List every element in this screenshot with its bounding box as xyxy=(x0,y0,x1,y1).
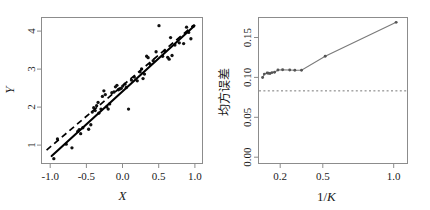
y-tick-label: 4 xyxy=(25,28,37,34)
scatter-point xyxy=(102,89,105,92)
x-tick-label: -0.5 xyxy=(78,170,96,182)
scatter-point xyxy=(95,104,98,107)
least-squares-fit-line xyxy=(52,26,195,156)
mse-data-point xyxy=(395,21,398,24)
x-axis-tick-labels: 0.2 0.5 1.0 xyxy=(273,170,401,182)
figure-container: 1 2 3 4 -1.0 -0.5 0.0 0.5 1.0 X xyxy=(0,0,430,210)
test-mse-points xyxy=(261,21,397,79)
x-tick-label: 0.5 xyxy=(152,170,166,182)
plot-frame xyxy=(259,18,408,164)
mse-data-point xyxy=(276,69,279,72)
mse-data-point xyxy=(263,73,266,76)
y-tick-label: 0.00 xyxy=(241,147,253,167)
y-tick-label: 1 xyxy=(25,142,37,148)
scatter-point xyxy=(182,42,185,45)
x-axis-title: X xyxy=(118,188,128,203)
scatter-point xyxy=(146,56,149,59)
x-tick-label: 0.2 xyxy=(273,170,287,182)
x-axis-title: 1/ K xyxy=(317,189,337,204)
x-tick-label: 1.0 xyxy=(387,170,401,182)
scatter-point xyxy=(89,123,92,126)
scatter-point xyxy=(115,84,118,87)
mse-plot-svg: 0.00 0.05 0.10 0.15 0.2 0.5 1.0 1/ K 均 xyxy=(215,0,430,210)
y-axis-ticks xyxy=(37,31,42,145)
mse-data-point xyxy=(261,76,264,79)
x-tick-label: 0.0 xyxy=(116,170,130,182)
y-axis-tick-labels: 0.00 0.05 0.10 0.15 xyxy=(241,27,253,166)
x-axis-title-variable: K xyxy=(326,189,337,204)
scatter-point xyxy=(141,77,144,80)
scatter-point xyxy=(101,95,104,98)
mse-data-point xyxy=(324,55,327,58)
mse-data-point xyxy=(273,71,276,74)
scatter-point xyxy=(127,107,130,110)
x-axis-title-prefix: 1/ xyxy=(317,189,328,204)
x-tick-label: -1.0 xyxy=(41,170,59,182)
y-tick-label: 2 xyxy=(25,104,37,110)
y-axis-title: Y xyxy=(2,85,17,94)
x-axis-ticks xyxy=(280,164,394,169)
scatter-point xyxy=(87,128,90,131)
scatter-plot-svg: 1 2 3 4 -1.0 -0.5 0.0 0.5 1.0 X xyxy=(0,0,215,210)
mse-panel: 0.00 0.05 0.10 0.15 0.2 0.5 1.0 1/ K 均 xyxy=(215,0,430,210)
scatter-point xyxy=(96,101,99,104)
mse-data-point xyxy=(288,69,291,72)
mse-data-point xyxy=(293,69,296,72)
scatter-point xyxy=(170,54,173,57)
scatter-point xyxy=(70,146,73,149)
y-axis-ticks xyxy=(254,38,259,158)
scatter-point xyxy=(104,93,107,96)
scatter-point xyxy=(52,157,55,160)
x-axis-tick-labels: -1.0 -0.5 0.0 0.5 1.0 xyxy=(41,170,202,182)
x-tick-label: 1.0 xyxy=(188,170,202,182)
mse-data-point xyxy=(300,69,303,72)
scatter-point xyxy=(79,132,82,135)
y-tick-label: 3 xyxy=(25,66,37,72)
y-axis-tick-labels: 1 2 3 4 xyxy=(25,28,37,148)
y-tick-label: 0.15 xyxy=(241,27,253,47)
y-tick-label: 0.05 xyxy=(241,107,253,127)
scatter-point xyxy=(167,58,170,61)
scatter-point xyxy=(157,24,160,27)
scatter-point xyxy=(107,107,110,110)
mse-data-point xyxy=(281,68,284,71)
scatter-point xyxy=(189,37,192,40)
scatter-point xyxy=(154,50,157,53)
x-axis-ticks xyxy=(50,164,195,169)
mse-data-point xyxy=(271,71,274,74)
y-tick-label: 0.10 xyxy=(241,67,253,87)
scatter-point xyxy=(185,26,188,29)
scatter-panel: 1 2 3 4 -1.0 -0.5 0.0 0.5 1.0 X xyxy=(0,0,215,210)
x-tick-label: 0.5 xyxy=(316,170,330,182)
y-axis-title: 均方误差 xyxy=(217,68,232,116)
scatter-point xyxy=(169,36,172,39)
